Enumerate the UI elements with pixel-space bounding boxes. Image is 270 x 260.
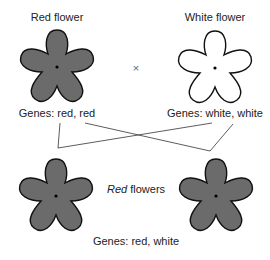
offspring-label-rest: flowers xyxy=(127,183,165,195)
red-flower-title: Red flower xyxy=(31,11,84,23)
red-flower-parent xyxy=(21,30,94,101)
cross-symbol: × xyxy=(133,62,139,74)
inheritance-line-to-right xyxy=(85,123,233,151)
red-flower-offspring-left xyxy=(20,159,93,230)
red-flower-offspring-right xyxy=(180,159,253,230)
white-flower-parent xyxy=(179,31,252,102)
cross-diagram xyxy=(0,0,270,260)
red-parent-genes: Genes: red, red xyxy=(19,107,95,119)
white-parent-genes: Genes: white, white xyxy=(167,107,263,119)
flower-center-dot xyxy=(54,194,57,197)
inheritance-line-red-to-left xyxy=(58,123,212,148)
offspring-label: Red flowers xyxy=(107,183,165,195)
flower-center-dot xyxy=(214,194,217,197)
offspring-genes: Genes: red, white xyxy=(93,235,179,247)
offspring-label-italic: Red xyxy=(107,183,127,195)
flower-center-dot xyxy=(213,66,216,69)
flower-center-dot xyxy=(55,65,58,68)
white-flower-title: White flower xyxy=(185,11,246,23)
